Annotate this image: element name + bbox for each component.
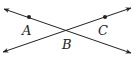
label-a: A <box>22 24 31 37</box>
label-c: C <box>98 24 108 37</box>
point-c-dot <box>103 15 107 19</box>
label-b: B <box>62 38 72 51</box>
point-a-dot <box>27 15 31 19</box>
